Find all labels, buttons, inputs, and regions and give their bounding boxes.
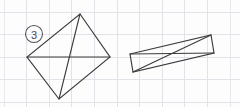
figure-container: 3 xyxy=(0,0,240,107)
item-number-text: 3 xyxy=(31,29,37,41)
geometry-figure: 3 xyxy=(0,0,240,107)
